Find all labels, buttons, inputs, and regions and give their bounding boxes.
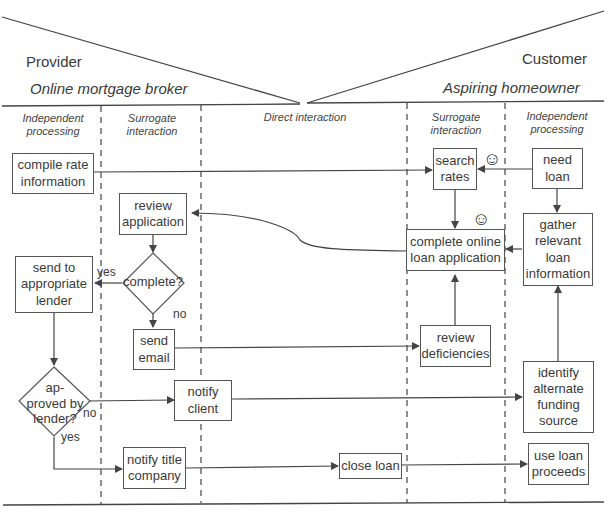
edge-title-to-close: [186, 466, 338, 468]
smiley-icon: ☺: [472, 210, 490, 228]
customer-role-label: Customer: [522, 50, 587, 68]
branch-approved-no: no: [83, 406, 96, 420]
edge-approved-no-client: [88, 400, 174, 401]
decision-approved-label: ap- proved by lender?: [20, 380, 90, 427]
bottom-line: [3, 502, 604, 505]
edge-close-to-proceeds: [402, 464, 527, 465]
provider-entity-label: Online mortgage broker: [30, 80, 188, 98]
edge-email-to-deficiencies: [174, 346, 419, 348]
step-send-to-lender: send to appropriate lender: [15, 256, 93, 313]
step-gather-loan-information: gather relevant loan information: [523, 213, 593, 286]
top-line-left: [2, 104, 300, 106]
step-review-deficiencies: review deficiencies: [420, 325, 491, 367]
branch-complete-yes: yes: [97, 265, 116, 279]
step-review-application: review application: [119, 193, 187, 235]
step-use-loan-proceeds: use loan proceeds: [528, 443, 589, 485]
step-need-loan: need loan: [532, 148, 583, 189]
decision-complete-label: complete?: [121, 274, 185, 290]
step-search-rates: search rates: [433, 148, 477, 190]
zone-label-customer-independent: Independent processing: [508, 110, 606, 136]
zone-label-provider-independent: Independent processing: [8, 112, 98, 138]
customer-entity-label: Aspiring homeowner: [443, 79, 580, 97]
edge-complete-to-review: [192, 213, 406, 251]
edge-client-to-identify: [232, 397, 522, 399]
step-compile-rate-information: compile rate information: [12, 153, 94, 194]
zone-label-direct: Direct interaction: [210, 111, 400, 124]
zone-label-customer-surrogate: Surrogate interaction: [410, 111, 502, 137]
provider-role-label: Provider: [26, 53, 82, 71]
branch-approved-yes: yes: [61, 430, 80, 444]
step-notify-client: notify client: [174, 380, 232, 421]
step-send-email: send email: [133, 329, 175, 370]
step-identify-alternate-funding: identify alternate funding source: [523, 361, 594, 433]
step-notify-title-company: notify title company: [123, 447, 186, 489]
smiley-icon: ☺: [483, 150, 501, 168]
edge-compile-to-search: [94, 170, 432, 172]
zone-label-provider-surrogate: Surrogate interaction: [106, 112, 198, 138]
branch-complete-no: no: [173, 307, 186, 321]
step-close-loan: close loan: [339, 453, 402, 479]
top-line-right: [307, 101, 604, 103]
step-complete-online-application: complete online loan application: [406, 229, 505, 271]
